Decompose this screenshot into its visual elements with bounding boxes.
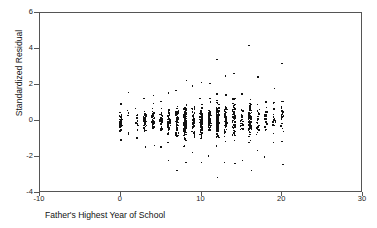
data-point: [209, 98, 210, 99]
data-point: [152, 115, 153, 116]
data-point: [202, 120, 203, 121]
data-point: [257, 150, 258, 151]
plot-area: [39, 12, 362, 192]
data-point: [194, 136, 195, 137]
data-point: [273, 142, 274, 143]
data-point: [177, 119, 178, 120]
data-point: [248, 45, 249, 46]
data-point: [137, 123, 138, 124]
data-point: [210, 101, 211, 102]
data-point: [137, 129, 138, 130]
data-point: [272, 124, 273, 125]
data-point: [201, 162, 202, 163]
data-point: [185, 162, 186, 163]
data-point: [194, 134, 195, 135]
data-point: [274, 102, 275, 103]
data-point: [201, 104, 202, 105]
data-point: [216, 145, 217, 146]
data-point: [185, 138, 186, 139]
data-point: [250, 103, 251, 104]
data-point: [225, 107, 226, 108]
data-point: [160, 101, 161, 102]
data-point: [233, 73, 234, 74]
data-point: [233, 116, 234, 117]
data-point: [282, 164, 283, 165]
data-point: [225, 75, 226, 76]
data-point: [233, 98, 234, 99]
data-point: [264, 156, 265, 157]
data-point: [202, 126, 203, 127]
data-point: [119, 130, 120, 131]
data-point: [176, 133, 177, 134]
data-point: [273, 120, 274, 121]
data-point: [257, 116, 258, 117]
data-point: [266, 107, 267, 108]
x-tick-label: 30: [358, 194, 366, 203]
data-point: [248, 118, 249, 119]
data-point: [201, 129, 202, 130]
data-point: [264, 115, 265, 116]
data-point: [199, 98, 200, 99]
data-point: [168, 130, 169, 131]
data-point: [224, 129, 225, 130]
y-tick-label: 6: [29, 8, 33, 16]
data-point: [249, 131, 250, 132]
data-point: [192, 85, 193, 86]
data-point: [193, 123, 194, 124]
data-point: [176, 118, 177, 119]
data-point: [160, 129, 161, 130]
data-point: [224, 136, 225, 137]
data-point: [201, 136, 202, 137]
data-point: [218, 110, 219, 111]
data-point: [200, 120, 201, 121]
data-point: [176, 114, 177, 115]
data-point: [248, 121, 249, 122]
y-axis-title: Standardized Residual: [14, 5, 24, 141]
data-point: [258, 129, 259, 130]
data-point: [281, 141, 282, 142]
data-point: [168, 111, 169, 112]
data-point: [256, 134, 257, 135]
data-point: [192, 115, 193, 116]
data-point: [168, 160, 169, 161]
data-point: [145, 130, 146, 131]
data-point: [234, 135, 235, 136]
data-point: [265, 118, 266, 119]
data-points-layer: [40, 13, 361, 191]
data-point: [153, 95, 154, 96]
data-point: [128, 132, 129, 133]
data-point: [241, 115, 242, 116]
data-point: [202, 117, 203, 118]
data-point: [120, 117, 121, 118]
data-point: [127, 110, 128, 111]
data-point: [152, 127, 153, 128]
data-point: [232, 120, 233, 121]
data-point: [144, 117, 145, 118]
scatter-plot-figure: Standardized Residual Father's Highest Y…: [0, 0, 377, 228]
data-point: [225, 118, 226, 119]
data-point: [169, 114, 170, 115]
data-point: [161, 119, 162, 120]
data-point: [168, 92, 169, 93]
data-point: [194, 109, 195, 110]
data-point: [169, 129, 170, 130]
data-point: [168, 132, 169, 133]
data-point: [216, 100, 217, 101]
x-axis-title: Father's Highest Year of School: [45, 210, 165, 220]
data-point: [208, 116, 209, 117]
data-point: [273, 121, 274, 122]
data-point: [248, 142, 249, 143]
data-point: [218, 114, 219, 115]
data-point: [121, 114, 122, 115]
data-point: [208, 110, 209, 111]
data-point: [226, 112, 227, 113]
data-point: [248, 116, 249, 117]
data-point: [184, 117, 185, 118]
data-point: [153, 121, 154, 122]
data-point: [136, 122, 137, 123]
data-point: [177, 124, 178, 125]
data-point: [224, 111, 225, 112]
data-point: [192, 128, 193, 129]
data-point: [186, 80, 187, 81]
data-point: [242, 121, 243, 122]
